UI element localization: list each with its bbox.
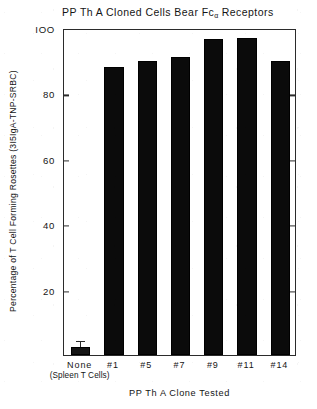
chart-title-tail: Receptors (218, 6, 273, 18)
x-tick-label-line1: #5 (140, 360, 152, 370)
x-tick-label-line2: (Spleen T Cells) (50, 371, 110, 380)
bar-column (138, 30, 157, 355)
bar (138, 61, 157, 355)
bar (237, 38, 256, 355)
bar-column (171, 30, 190, 355)
bar (171, 57, 190, 355)
x-tick-label: #7 (174, 360, 186, 370)
y-tick-label: 60 (23, 154, 55, 165)
bar-column (204, 30, 223, 355)
y-tick-label: 80 (23, 89, 55, 100)
figure-container: PP Th A Cloned Cells Bear Fcα Receptors … (0, 0, 317, 409)
bar-column (104, 30, 123, 355)
x-tick-label-line1: #11 (238, 360, 255, 370)
bar (271, 61, 290, 355)
bar (104, 67, 123, 355)
x-tick-label: #14 (270, 360, 288, 370)
x-tick-label: #11 (238, 360, 255, 370)
x-tick-label-line1: #14 (270, 360, 288, 370)
x-tick-label: #1 (107, 360, 119, 370)
x-tick-label: #9 (207, 360, 219, 370)
y-tick-label: IOO (23, 24, 55, 35)
y-tick-label: 40 (23, 220, 55, 231)
x-tick-label-line1: #7 (174, 360, 186, 370)
chart-title-main: PP Th A Cloned Cells Bear Fc (62, 6, 214, 18)
x-tick-label-line1: None (67, 360, 92, 370)
x-tick-label: #5 (140, 360, 152, 370)
x-tick-label-line1: #9 (207, 360, 219, 370)
bar-series (64, 30, 295, 355)
x-tick-label: None(Spleen T Cells) (50, 360, 110, 380)
y-axis-title: Percentage of T Cell Forming Rosettes (3… (8, 36, 18, 346)
error-bar-cap (76, 341, 85, 342)
plot-area (63, 29, 296, 356)
bar-column (271, 30, 290, 355)
bar (204, 39, 223, 355)
chart-title: PP Th A Cloned Cells Bear Fcα Receptors (62, 6, 312, 19)
bar-column (71, 30, 90, 355)
x-axis-title: PP Th A Clone Tested (63, 388, 296, 398)
error-bar (80, 342, 81, 347)
bar (71, 347, 90, 355)
bar-column (237, 30, 256, 355)
x-tick-label-line1: #1 (107, 360, 119, 370)
y-tick-label: 20 (23, 285, 55, 296)
